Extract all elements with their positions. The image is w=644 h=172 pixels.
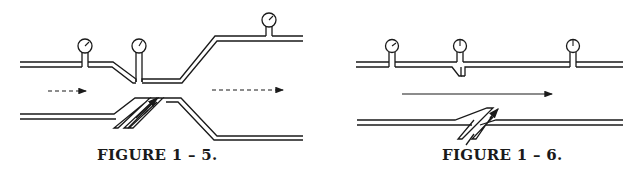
figure-1-5-caption: FIGURE 1 – 5.: [97, 146, 218, 164]
fig6-gauge-2: [454, 40, 467, 53]
figure-1-6-diagram: [356, 40, 623, 146]
fig5-gauge-stems: [82, 26, 272, 82]
fig6-upper-wall: [356, 52, 623, 76]
figure-1-6-caption: FIGURE 1 – 6.: [442, 146, 563, 164]
fig5-gauge-1: [78, 39, 92, 53]
fig6-gauge-1: [386, 40, 399, 53]
figure-1-5-diagram: [20, 13, 303, 140]
fig5-gauge-3: [262, 13, 276, 27]
fig6-gauge-stems: [389, 52, 576, 67]
fig5-upper-wall: [20, 36, 303, 83]
fig5-gauge-2: [132, 39, 146, 53]
fig6-lower-wall: [357, 108, 623, 145]
fig5-lower-wall: [20, 98, 303, 140]
fig6-gauge-3: [567, 40, 580, 53]
